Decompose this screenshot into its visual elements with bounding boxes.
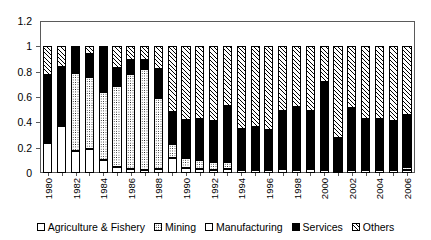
bar-segment	[251, 46, 260, 127]
bar-segment	[154, 98, 163, 169]
x-axis-tick	[158, 173, 159, 176]
bar-segment	[306, 111, 315, 167]
legend-label: Others	[363, 221, 395, 233]
bar-slot	[179, 22, 193, 173]
bar-segment	[99, 92, 108, 160]
x-axis-tick-label: 1990	[181, 178, 192, 199]
y-axis-tick-label: 0.2	[2, 142, 32, 154]
x-axis-tick-label: 1982	[70, 178, 81, 199]
stacked-bar	[223, 46, 232, 173]
bar-slot	[317, 22, 331, 173]
stacked-bar	[85, 46, 94, 173]
stacked-bar	[237, 46, 246, 173]
bar-slot	[290, 22, 304, 173]
legend-item[interactable]: Manufacturing	[205, 221, 283, 233]
x-axis-slot	[55, 173, 69, 215]
bar-segment	[126, 46, 135, 60]
bar-segment	[85, 149, 94, 173]
bar-segment	[292, 46, 301, 106]
stacked-bar	[278, 46, 287, 173]
x-axis-tick	[366, 173, 367, 176]
x-axis-slot: 2006	[400, 173, 414, 215]
bar-segment	[112, 86, 121, 167]
x-axis-slot	[276, 173, 290, 215]
bar-segment	[71, 151, 80, 173]
bar-segment	[85, 46, 94, 54]
legend-swatch-icon	[292, 223, 300, 231]
bar-segment	[389, 46, 398, 120]
x-axis-slot	[110, 173, 124, 215]
bar-segment	[361, 119, 370, 168]
bar-slot	[276, 22, 290, 173]
x-axis-tick-label: 1980	[42, 178, 53, 199]
y-axis-tick-label: 0.8	[2, 66, 32, 78]
legend-item[interactable]: Others	[352, 221, 395, 233]
bar-segment	[195, 46, 204, 118]
x-axis-tick	[117, 173, 118, 176]
bar-segment	[126, 74, 135, 169]
x-axis-tick	[255, 173, 256, 176]
bar-slot	[386, 22, 400, 173]
bar-segment	[99, 160, 108, 173]
x-axis-tick	[297, 173, 298, 176]
x-axis-tick-label: 2004	[374, 178, 385, 199]
stacked-bar	[264, 46, 273, 173]
bar-segment	[168, 144, 177, 158]
stacked-bar	[154, 46, 163, 173]
y-axis-tick-label: 1	[2, 40, 32, 52]
bar-slot	[55, 22, 69, 173]
legend-swatch-icon	[154, 223, 162, 231]
x-axis-tick	[241, 173, 242, 176]
x-axis-tick	[227, 173, 228, 176]
x-axis-slot	[303, 173, 317, 215]
legend-item[interactable]: Agriculture & Fishery	[37, 221, 145, 233]
x-axis-tick	[338, 173, 339, 176]
legend-item[interactable]: Services	[292, 221, 343, 233]
x-axis-tick	[186, 173, 187, 176]
bar-segment	[195, 160, 204, 169]
x-axis-tick	[48, 173, 49, 176]
bar-segment	[168, 158, 177, 173]
x-axis-tick	[145, 173, 146, 176]
bar-slot	[82, 22, 96, 173]
bar-segment	[57, 126, 66, 173]
bar-segment	[320, 82, 329, 168]
bar-segment	[195, 119, 204, 161]
bar-segment	[85, 54, 94, 77]
bar-segment	[278, 46, 287, 111]
bar-slot	[69, 22, 83, 173]
bar-series-group	[41, 22, 414, 173]
bar-segment	[347, 46, 356, 108]
legend-label: Agriculture & Fishery	[48, 221, 145, 233]
bar-segment	[251, 127, 260, 169]
x-axis-tick	[103, 173, 104, 176]
bar-slot	[110, 22, 124, 173]
y-axis: 00.20.40.60.811.2	[0, 0, 40, 240]
bar-segment	[389, 121, 398, 169]
bar-segment	[223, 106, 232, 162]
x-axis-slot	[359, 173, 373, 215]
x-axis-tick	[269, 173, 270, 176]
x-axis-slot: 1988	[152, 173, 166, 215]
legend-label: Mining	[165, 221, 196, 233]
bar-slot	[303, 22, 317, 173]
x-axis-tick-label: 1994	[236, 178, 247, 199]
chart-legend: Agriculture & FisheryMiningManufacturing…	[0, 216, 431, 238]
bar-segment	[209, 46, 218, 121]
bar-segment	[306, 46, 315, 111]
x-axis-tick-label: 1992	[208, 178, 219, 199]
stacked-bar	[347, 46, 356, 173]
bar-segment	[402, 115, 411, 167]
x-axis-slot: 2004	[373, 173, 387, 215]
bar-slot	[262, 22, 276, 173]
bar-slot	[331, 22, 345, 173]
x-axis-tick-label: 1986	[125, 178, 136, 199]
x-axis-tick	[62, 173, 63, 176]
bar-segment	[361, 46, 370, 119]
stacked-bar	[306, 46, 315, 173]
bar-slot	[41, 22, 55, 173]
x-axis-tick	[89, 173, 90, 176]
bar-segment	[85, 77, 94, 149]
legend-item[interactable]: Mining	[154, 221, 196, 233]
x-axis-slot	[221, 173, 235, 215]
